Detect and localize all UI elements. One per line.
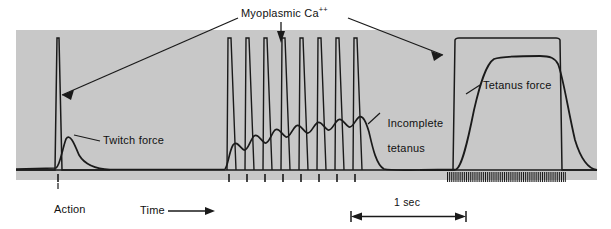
tetanus-force-label: Tetanus force <box>483 79 552 91</box>
time-axis-label: Time <box>140 204 165 216</box>
twitch-force-label: Twitch force <box>103 134 164 146</box>
tetanus-stimulus-train <box>447 172 566 182</box>
figure-title: Myoplasmic Ca++ <box>241 5 328 19</box>
scale-bar-label: 1 sec <box>394 196 420 208</box>
recording-panel <box>16 30 597 180</box>
incomplete-tetanus-label: Incomplete tetanus <box>381 104 443 154</box>
action-potential-label: Action potential <box>48 190 98 229</box>
